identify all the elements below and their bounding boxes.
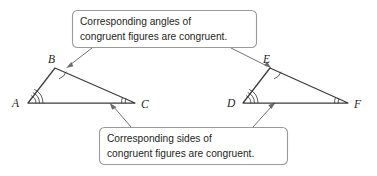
vertex-label-a: A: [11, 97, 20, 109]
leader-angles-left: [66, 48, 92, 68]
callout-sides-line1: Corresponding sides of: [107, 133, 212, 144]
triangle-def: D E F: [226, 53, 362, 110]
geometry-figure: A B C D E F: [0, 0, 377, 176]
callout-sides: Corresponding sides of congruent figures…: [100, 128, 288, 165]
triangle-abc: A B C: [11, 53, 149, 110]
vertex-label-b: B: [48, 53, 55, 65]
vertex-label-c: C: [141, 98, 149, 110]
triangle-abc-outline: [28, 68, 135, 103]
leader-sides-left: [110, 103, 131, 127]
figure-canvas: A B C D E F: [0, 0, 377, 176]
leader-sides-right: [253, 103, 276, 127]
callout-sides-line2: congruent figures are congruent.: [107, 148, 254, 159]
angle-mark-b: [59, 72, 66, 79]
callout-angles: Corresponding angles of congruent figure…: [73, 11, 257, 48]
callout-angles-line1: Corresponding angles of: [80, 16, 191, 27]
vertex-label-e: E: [262, 53, 270, 65]
vertex-label-d: D: [226, 97, 236, 109]
vertex-label-f: F: [353, 98, 362, 110]
triangle-def-outline: [243, 68, 348, 103]
callout-angles-line2: congruent figures are congruent.: [80, 31, 227, 42]
